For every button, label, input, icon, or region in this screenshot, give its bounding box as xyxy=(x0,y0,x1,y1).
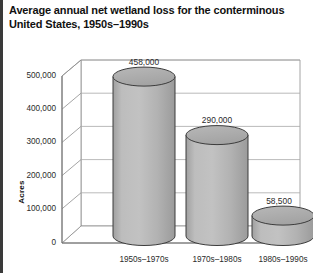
chart-side-wall xyxy=(62,60,81,243)
data-label-3: 58,500 xyxy=(245,196,313,206)
y-tick-label-500000: 500,000 xyxy=(8,71,56,80)
chart-plot-area: 500,000 400,000 300,000 200,000 100,000 … xyxy=(0,52,313,273)
y-tick-label-0: 0 xyxy=(8,238,56,247)
bar-cylinder-1 xyxy=(113,67,175,245)
y-axis-title: Acres xyxy=(17,180,26,203)
chart-title: Average annual net wetland loss for the … xyxy=(9,4,305,31)
data-label-1: 458,000 xyxy=(110,57,178,67)
data-label-2: 290,000 xyxy=(183,115,251,125)
bar-cylinder-2 xyxy=(186,126,248,246)
y-tick-label-300000: 300,000 xyxy=(8,137,56,146)
y-tick-label-200000: 200,000 xyxy=(8,171,56,180)
bar-cylinder-3 xyxy=(252,206,313,245)
y-tick-label-400000: 400,000 xyxy=(8,104,56,113)
x-tick-label-3: 1980s–1990s xyxy=(237,255,313,264)
y-tick-label-100000: 100,000 xyxy=(8,204,56,213)
